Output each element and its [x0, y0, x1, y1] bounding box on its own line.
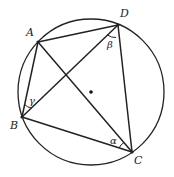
- side-ad: [38, 25, 118, 42]
- vertex-b: [20, 115, 23, 118]
- label-alpha: α: [110, 135, 117, 146]
- diagonal-bd: [22, 25, 118, 117]
- angle-arc-alpha: [119, 143, 124, 149]
- vertex-a: [36, 40, 39, 43]
- angle-arc-beta: [108, 35, 117, 38]
- label-b: B: [9, 119, 18, 132]
- label-a: A: [25, 26, 34, 39]
- cyclic-quadrilateral-diagram: A D B C α β γ: [0, 0, 174, 177]
- diagonal-ac: [38, 42, 132, 152]
- label-d: D: [119, 7, 129, 20]
- label-c: C: [134, 154, 143, 167]
- label-beta: β: [106, 39, 113, 50]
- center-dot: [89, 90, 93, 94]
- vertex-d: [116, 23, 119, 26]
- side-dc: [118, 25, 132, 152]
- label-gamma: γ: [29, 95, 35, 106]
